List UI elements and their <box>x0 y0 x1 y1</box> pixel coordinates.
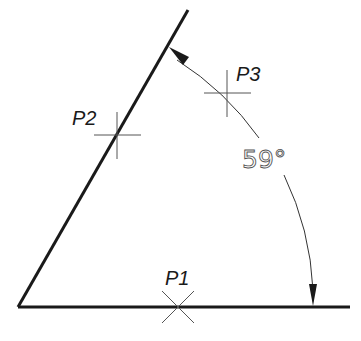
arrowhead-upper-icon <box>169 47 189 65</box>
dimension-arc-lower <box>284 175 313 290</box>
p2-label: P2 <box>72 107 96 129</box>
arrowhead-lower-icon <box>309 284 317 306</box>
angle-value: 59° <box>242 145 286 174</box>
p1-label: P1 <box>165 267 189 289</box>
p2-marker-icon <box>94 112 141 159</box>
p3-label: P3 <box>236 63 260 85</box>
angle-diagram: P1 P2 P3 59° <box>0 0 361 341</box>
inclined-line <box>18 10 188 307</box>
